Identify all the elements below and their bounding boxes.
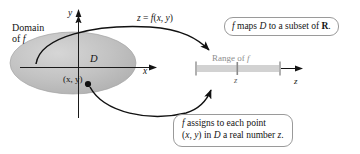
callout-bottom-line2: (x, y) in D a real number z.	[182, 130, 284, 142]
z-axis-label: z	[294, 76, 298, 86]
x-axis-label: x	[143, 66, 147, 77]
mapping-arrow-lower	[90, 87, 211, 116]
domain-caption-line2: of f	[12, 33, 44, 44]
callout-top: f maps D to a subset of R.	[224, 17, 339, 36]
z-value-tick-label: z	[234, 76, 237, 86]
domain-caption: Domain of f	[12, 22, 44, 44]
point-marker	[85, 81, 91, 87]
y-axis-label: y	[68, 8, 72, 19]
domain-set-label: D	[90, 53, 98, 65]
function-equation-label: z = f(x, y)	[137, 13, 173, 24]
callout-bottom-line1: f assigns to each point	[182, 118, 284, 130]
point-label: (x, y)	[63, 74, 83, 84]
range-label: Range of f	[212, 53, 250, 63]
range-cap-right	[279, 62, 281, 76]
callout-top-text: f maps D to a subset of R.	[232, 21, 331, 31]
z-tick-mark	[237, 62, 239, 75]
z-number-line	[195, 62, 303, 76]
callout-bottom: f assigns to each point (x, y) in D a re…	[173, 114, 293, 147]
domain-caption-line1: Domain	[12, 22, 44, 33]
range-cap-left	[195, 62, 197, 76]
figure-canvas: y x D (x, y) Domain of f z = f(x, y) Ran…	[0, 0, 360, 154]
